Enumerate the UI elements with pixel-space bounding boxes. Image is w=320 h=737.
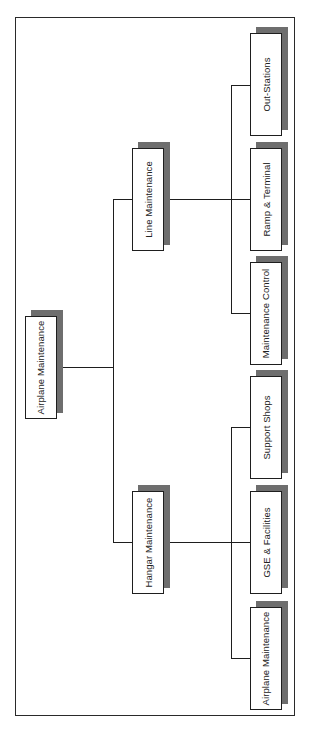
node-out-stations: Out-Stations [250,33,282,136]
node-box: Maintenance Control [250,262,282,365]
node-box: Support Shops [250,376,282,479]
node-line-maintenance: Line Maintenance [132,148,164,251]
connector-airplane-maint-child [231,658,250,659]
node-label: Airplane Maintenance [36,321,47,415]
node-hangar-maintenance: Hangar Maintenance [132,491,164,594]
node-label: GSE & Facilities [261,507,272,577]
node-box: GSE & Facilities [250,491,282,594]
node-maintenance-control: Maintenance Control [250,262,282,365]
node-label: Out-Stations [261,57,272,111]
node-box: Ramp & Terminal [250,148,282,251]
node-gse-facilities: GSE & Facilities [250,491,282,594]
node-airplane-maintenance-child: Airplane Maintenance [250,607,282,710]
node-ramp-terminal: Ramp & Terminal [250,148,282,251]
connector-hangar-group-spine [231,427,232,659]
connector-hangar-to-group [163,542,250,543]
connector-support-shops [231,427,250,428]
node-label: Line Maintenance [143,161,154,238]
node-box: Airplane Maintenance [25,316,57,419]
connector-out-stations [231,85,250,86]
node-label: Ramp & Terminal [261,162,272,236]
node-label: Hangar Maintenance [143,498,154,588]
connector-line-to-group [163,199,250,200]
connector-line-maint [113,199,132,200]
node-box: Line Maintenance [132,148,164,251]
connector-spine [113,199,114,543]
node-label: Support Shops [261,395,272,459]
node-box: Out-Stations [250,33,282,136]
node-label: Maintenance Control [261,269,272,359]
node-label: Airplane Maintenance [261,612,272,706]
node-root-airplane-maintenance: Airplane Maintenance [25,316,57,419]
connector-maint-control [231,313,250,314]
connector-line-group-spine [231,85,232,314]
connector-root [57,367,114,368]
node-support-shops: Support Shops [250,376,282,479]
node-box: Hangar Maintenance [132,491,164,594]
connector-hangar-maint [113,542,132,543]
node-box: Airplane Maintenance [250,607,282,710]
